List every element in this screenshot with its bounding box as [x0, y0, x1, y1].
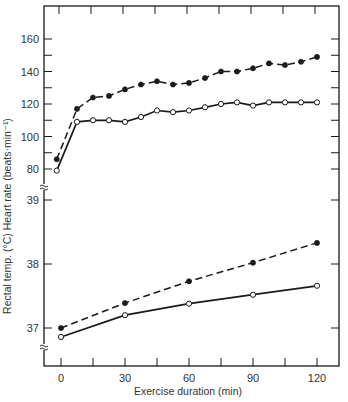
hr-series-1-marker-open — [90, 118, 95, 123]
hr-series-1-marker-open — [314, 100, 319, 105]
plot-frame — [44, 6, 339, 366]
hr-series-0-marker-filled — [186, 80, 191, 85]
plot-border — [44, 6, 339, 366]
hr-series-1-marker-open — [74, 119, 79, 124]
hr-series-1-marker-open — [106, 118, 111, 123]
hr-series-1-marker-open — [202, 105, 207, 110]
hr-tick-label: 160 — [21, 33, 39, 45]
hr-series-0-marker-filled — [202, 75, 207, 80]
hr-series-0-marker-filled — [170, 82, 175, 87]
y-axis-label: Rectal temp. (°C) Heart rate (beats·min⁻… — [1, 118, 13, 314]
hr-series-0-marker-filled — [54, 157, 59, 162]
hr-series-0-marker-filled — [106, 93, 111, 98]
temp-series-1-marker-open — [122, 313, 127, 318]
hr-series-0-line — [57, 57, 317, 159]
hr-series-1-marker-open — [218, 101, 223, 106]
hr-series-1-marker-open — [54, 168, 59, 173]
hr-tick-label: 120 — [21, 98, 39, 110]
x-tick-label: 30 — [119, 372, 131, 384]
hr-series-0-marker-filled — [90, 95, 95, 100]
hr-series-0-marker-filled — [218, 69, 223, 74]
hr-tick-label: 80 — [27, 163, 39, 175]
x-tick-label: 60 — [183, 372, 195, 384]
temp-series-0-marker-filled — [250, 260, 255, 265]
hr-series-1-marker-open — [154, 108, 159, 113]
temp-series-0-line — [61, 243, 317, 328]
hr-tick-label: 100 — [21, 131, 39, 143]
chart-canvas: 030609012016014012010080393837 — [0, 0, 348, 402]
temp-series-1-marker-open — [250, 292, 255, 297]
hr-series-0-marker-filled — [298, 59, 303, 64]
axis-ticks — [44, 6, 339, 366]
hr-series-0-marker-filled — [74, 106, 79, 111]
temp-tick-label: 38 — [27, 258, 39, 270]
hr-series-0-marker-filled — [282, 62, 287, 67]
hr-series-0-marker-filled — [122, 87, 127, 92]
temp-series-0-marker-filled — [122, 300, 127, 305]
x-tick-label: 120 — [308, 372, 326, 384]
temp-series-0-marker-filled — [314, 240, 319, 245]
hr-series-1-marker-open — [186, 108, 191, 113]
hr-tick-label: 140 — [21, 66, 39, 78]
hr-series-1-marker-open — [266, 100, 271, 105]
hr-series-1-marker-open — [170, 110, 175, 115]
temp-series-1-marker-open — [314, 283, 319, 288]
hr-series-0-marker-filled — [250, 66, 255, 71]
temp-tick-label: 37 — [27, 322, 39, 334]
hr-series-0-marker-filled — [314, 54, 319, 59]
temp-series-1-line — [61, 286, 317, 337]
temp-series-1-marker-open — [186, 301, 191, 306]
hr-series-1-marker-open — [122, 119, 127, 124]
hr-series-0-marker-filled — [138, 82, 143, 87]
x-tick-label: 90 — [247, 372, 259, 384]
hr-series-0-marker-filled — [234, 69, 239, 74]
temp-series-1-marker-open — [58, 334, 63, 339]
hr-series-1-marker-open — [282, 100, 287, 105]
hr-series-0-marker-filled — [266, 61, 271, 66]
temp-tick-label: 39 — [27, 194, 39, 206]
hr-series-1-marker-open — [250, 103, 255, 108]
hr-series-1-marker-open — [234, 100, 239, 105]
temp-series-0-marker-filled — [58, 325, 63, 330]
hr-series-1-marker-open — [298, 100, 303, 105]
x-tick-label: 0 — [58, 372, 64, 384]
data-series — [54, 54, 319, 339]
hr-series-1-marker-open — [138, 114, 143, 119]
temp-series-0-marker-filled — [186, 279, 191, 284]
hr-series-0-marker-filled — [154, 79, 159, 84]
x-axis-label: Exercise duration (min) — [134, 385, 242, 397]
